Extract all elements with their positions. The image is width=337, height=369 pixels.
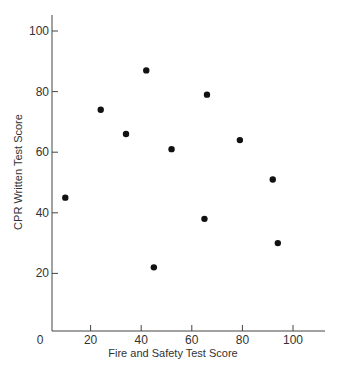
- y-tick-label: 80: [36, 85, 50, 99]
- y-axis: 20406080100: [29, 15, 58, 331]
- y-tick-label: 40: [36, 206, 50, 220]
- x-axis: 020406080100: [37, 325, 325, 347]
- x-tick-label: 80: [236, 333, 250, 347]
- data-point: [275, 240, 281, 246]
- data-point: [204, 91, 210, 97]
- scatter-chart: 20406080100 020406080100 CPR Written Tes…: [0, 0, 337, 369]
- data-point: [98, 107, 104, 113]
- x-tick-label: 100: [283, 333, 303, 347]
- y-tick-label: 60: [36, 145, 50, 159]
- data-point: [237, 137, 243, 143]
- data-point: [62, 194, 68, 200]
- x-tick-label: 20: [84, 333, 98, 347]
- data-point: [151, 264, 157, 270]
- data-point: [270, 176, 276, 182]
- y-tick-label: 20: [36, 266, 50, 280]
- y-axis-title: CPR Written Test Score: [12, 114, 24, 230]
- x-tick-label: 60: [185, 333, 199, 347]
- x-tick-label: 0: [37, 333, 44, 347]
- data-point: [201, 216, 207, 222]
- y-tick-label: 100: [29, 24, 49, 38]
- x-axis-title: Fire and Safety Test Score: [108, 347, 237, 359]
- data-point: [123, 131, 129, 137]
- data-point: [143, 67, 149, 73]
- data-point: [168, 146, 174, 152]
- x-tick-label: 40: [135, 333, 149, 347]
- data-points: [62, 67, 281, 270]
